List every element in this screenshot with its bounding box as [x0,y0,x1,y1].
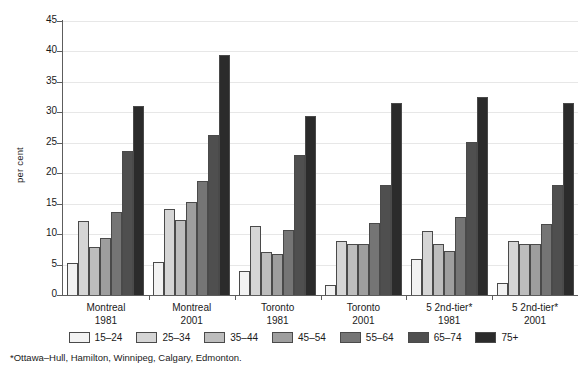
legend-swatch [408,332,429,343]
bar[interactable] [369,223,380,295]
x-axis-group-year: 2001 [321,315,407,328]
legend-item[interactable]: 75+ [475,332,518,343]
bar[interactable] [219,55,230,295]
bar[interactable] [411,259,422,295]
bar[interactable] [563,103,574,295]
legend-item[interactable]: 55–64 [340,332,394,343]
bar-group [67,21,144,295]
footnote: *Ottawa–Hull, Hamilton, Winnipeg, Calgar… [10,352,242,363]
legend-label: 65–74 [434,332,462,343]
y-axis-tick-label: 5 [11,258,57,269]
bar[interactable] [391,103,402,295]
bar[interactable] [67,263,78,295]
bar[interactable] [530,244,541,295]
bar[interactable] [122,151,133,295]
bar[interactable] [261,252,272,295]
bar[interactable] [455,217,466,295]
legend-item[interactable]: 25–34 [136,332,190,343]
bar[interactable] [133,106,144,295]
legend-swatch [475,332,496,343]
bar[interactable] [283,230,294,295]
x-axis-group-year: 1981 [63,315,149,328]
bar[interactable] [272,254,283,295]
y-axis-tick-label: 10 [11,227,57,238]
legend-swatch [204,332,225,343]
x-axis-group-name: Toronto [235,302,321,315]
bar[interactable] [208,135,219,295]
y-axis-tick-label: 25 [11,136,57,147]
bar-group [239,21,316,295]
x-axis-group-name: Toronto [321,302,407,315]
legend-item[interactable]: 35–44 [204,332,258,343]
x-axis-group-name: Montreal [63,302,149,315]
x-axis-group-label: 5 2nd-tier*1981 [406,302,492,327]
bar[interactable] [552,185,563,295]
bar[interactable] [325,285,336,295]
bar[interactable] [347,244,358,295]
x-axis-group-year: 2001 [492,315,578,328]
y-axis-tick-label: 15 [11,197,57,208]
x-axis-group-label: Montreal2001 [149,302,235,327]
legend-label: 75+ [501,332,518,343]
bar[interactable] [305,116,316,295]
legend: 15–2425–3435–4445–5455–6465–7475+ [0,332,587,343]
bar[interactable] [422,231,433,295]
bar-group [325,21,402,295]
y-axis-tick-label: 40 [11,44,57,55]
bar[interactable] [89,247,100,295]
x-axis-tick [406,295,407,300]
x-axis-group-label: Toronto1981 [235,302,321,327]
bar[interactable] [294,155,305,295]
x-axis-group-year: 1981 [235,315,321,328]
legend-swatch [136,332,157,343]
legend-item[interactable]: 15–24 [69,332,123,343]
bar-group [411,21,488,295]
bar[interactable] [433,244,444,295]
x-axis-group-name: 5 2nd-tier* [406,302,492,315]
x-axis-tick [149,295,150,300]
bar[interactable] [541,224,552,295]
x-axis-group-name: 5 2nd-tier* [492,302,578,315]
legend-item[interactable]: 45–54 [272,332,326,343]
x-axis-tick [321,295,322,300]
legend-label: 15–24 [95,332,123,343]
bar[interactable] [111,212,122,295]
bar[interactable] [239,271,250,295]
legend-label: 45–54 [298,332,326,343]
x-axis-group-label: Toronto2001 [321,302,407,327]
bar-group [497,21,574,295]
y-axis-tick-label: 35 [11,75,57,86]
y-axis-tick-label: 0 [11,288,57,299]
x-axis-tick [492,295,493,300]
y-axis-tick-label: 20 [11,166,57,177]
bar[interactable] [444,251,455,295]
x-axis-tick [235,295,236,300]
bar[interactable] [336,241,347,295]
legend-label: 55–64 [366,332,394,343]
y-axis-tick-label: 45 [11,14,57,25]
bar-chart: per cent 051015202530354045 Montreal1981… [0,0,587,371]
bar[interactable] [153,262,164,295]
bar[interactable] [466,142,477,295]
bar[interactable] [197,181,208,295]
legend-item[interactable]: 65–74 [408,332,462,343]
legend-label: 35–44 [230,332,258,343]
bar[interactable] [497,283,508,295]
plot-area [63,21,578,295]
x-axis-group-year: 2001 [149,315,235,328]
bar[interactable] [519,244,530,295]
bar[interactable] [186,202,197,295]
bar[interactable] [477,97,488,295]
x-axis-group-year: 1981 [406,315,492,328]
bar[interactable] [175,220,186,295]
legend-swatch [69,332,90,343]
bar[interactable] [164,209,175,295]
bar[interactable] [508,241,519,295]
bar[interactable] [250,226,261,295]
y-axis-tick-label: 30 [11,105,57,116]
bar[interactable] [100,238,111,295]
x-axis-group-label: Montreal1981 [63,302,149,327]
bar[interactable] [78,221,89,295]
bar[interactable] [358,244,369,295]
bar[interactable] [380,185,391,295]
